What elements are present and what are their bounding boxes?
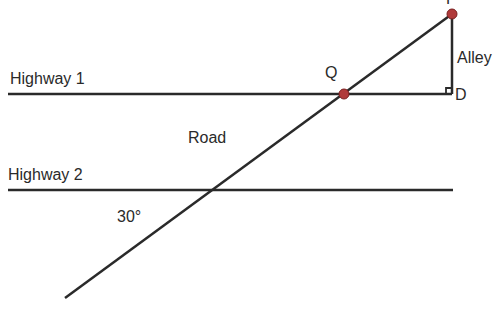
point-d-label: D — [455, 86, 467, 103]
diagram-canvas: Highway 1 Highway 2 Road Alley 30° P Q D — [0, 0, 502, 322]
point-q-label: Q — [325, 64, 337, 81]
angle-label: 30° — [117, 208, 141, 225]
alley-label: Alley — [457, 49, 492, 66]
highway-2-label: Highway 2 — [8, 166, 83, 183]
road-line — [65, 14, 452, 298]
point-p-marker — [447, 9, 457, 19]
road-label: Road — [188, 129, 226, 146]
point-q-marker — [339, 89, 349, 99]
highway-1-label: Highway 1 — [10, 70, 85, 87]
point-p-label: P — [446, 0, 457, 7]
